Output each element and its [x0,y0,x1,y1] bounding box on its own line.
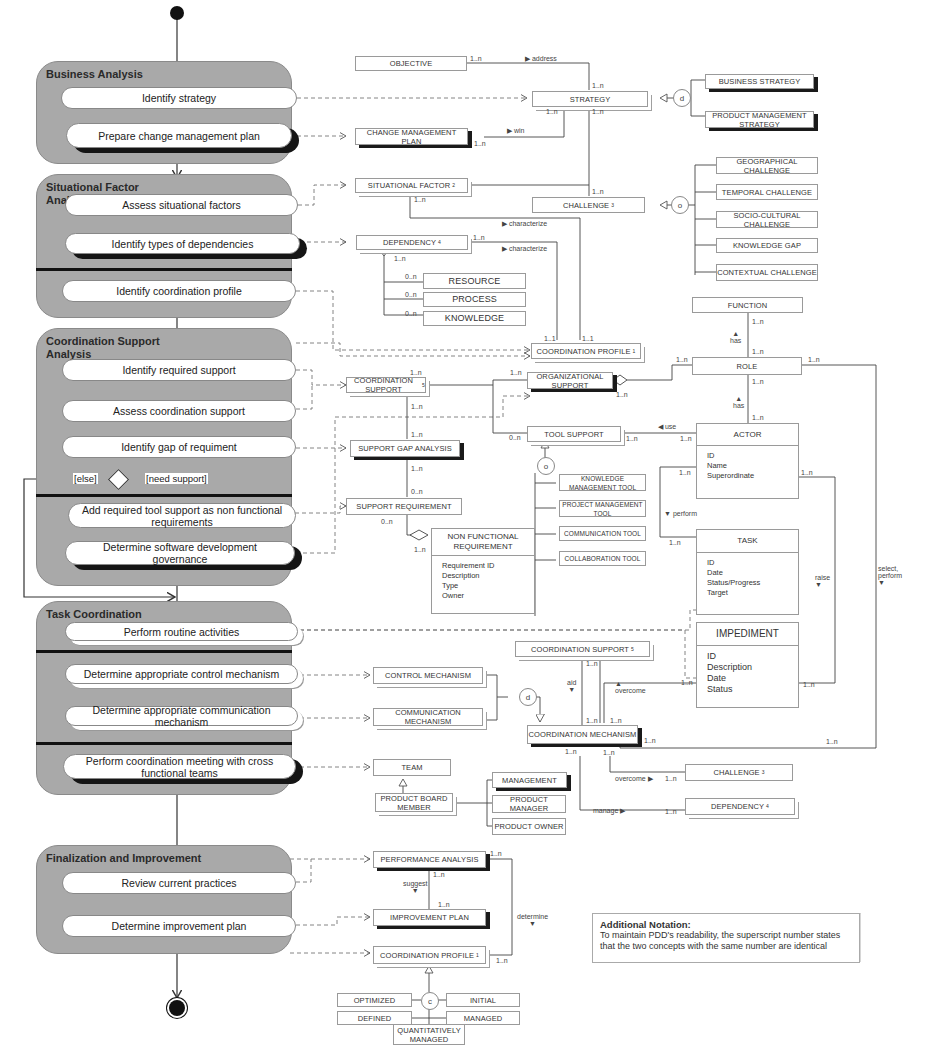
phase-finalization-and-improvement: Finalization and Improvement [36,845,292,954]
concept-temporal-challenge[interactable]: TEMPORAL CHALLENGE [716,184,818,200]
class-actor[interactable]: ACTOR ID Name Superordinate [696,423,799,499]
relation-aid: aid▼ [567,679,576,693]
concept-defined[interactable]: DEFINED [337,1011,412,1025]
concept-situational-factor[interactable]: SITUATIONAL FACTOR2 [355,178,468,193]
phase-title: Task Coordination [46,608,166,621]
activity-add-required-tool-support[interactable]: Add required tool support as non functio… [68,503,296,528]
concept-coordination-profile-1[interactable]: COORDINATION PROFILE1 [531,343,641,359]
activity-perform-coordination-meeting[interactable]: Perform coordination meeting with cross … [63,754,296,779]
activity-identify-gap-of-requirement[interactable]: Identify gap of requiment [62,436,296,458]
concept-knowledge-management-tool[interactable]: KNOWLEDGE MANAGEMENT TOOL [559,474,646,491]
concept-change-management-plan[interactable]: CHANGE MANAGEMENT PLAN [355,128,468,145]
process-deliverable-diagram: Business Analysis Identify strategy Prep… [0,0,932,1059]
concept-challenge[interactable]: CHALLENGE3 [532,197,645,213]
concept-dependency[interactable]: DEPENDENCY4 [356,235,468,250]
concept-business-strategy[interactable]: BUSINESS STRATEGY [705,74,814,89]
activity-determine-improvement-plan[interactable]: Determine improvement plan [62,915,296,937]
concept-dependency-4[interactable]: DEPENDENCY4 [685,798,795,815]
concept-product-board-member[interactable]: PRODUCT BOARD MEMBER [375,793,453,812]
concept-product-management-strategy[interactable]: PRODUCT MANAGEMENT STRATEGY [705,111,814,128]
relation-label: win [514,127,525,134]
multiplicity: 1..n [669,539,681,546]
concept-role[interactable]: ROLE [692,357,802,375]
multiplicity: 1..n [414,546,426,553]
concept-resource[interactable]: RESOURCE [423,273,526,289]
relation-label: characterize [509,245,547,252]
concept-management[interactable]: MANAGEMENT [492,772,567,788]
concept-organizational-support[interactable]: ORGANIZATIONAL SUPPORT [527,372,613,389]
class-task[interactable]: TASK ID Date Status/Progress Target [696,529,799,615]
superscript: 3 [611,201,614,210]
concept-control-mechanism[interactable]: CONTROL MECHANISM [373,667,483,684]
relation-label: overcome [615,687,646,694]
activity-determine-control-mechanism[interactable]: Determine appropriate control mechanism [65,664,298,684]
concept-coordination-support-5[interactable]: COORDINATION SUPPORT5 [515,641,650,657]
concept-strategy[interactable]: STRATEGY [532,91,648,107]
class-non-functional-requirement[interactable]: NON FUNCTIONAL REQUIREMENT Requirement I… [431,528,535,614]
concept-objective[interactable]: OBJECTIVE [355,56,467,71]
concept-coordination-profile-final[interactable]: COORDINATION PROFILE1 [373,946,486,964]
class-header: TASK [697,530,798,553]
concept-improvement-plan[interactable]: IMPROVEMENT PLAN [373,909,486,926]
multiplicity: 1..n [490,850,502,857]
concept-support-gap-analysis[interactable]: SUPPORT GAP ANALYSIS [350,440,460,457]
activity-identify-coordination-profile[interactable]: Identify coordination profile [62,280,296,302]
concept-product-owner[interactable]: PRODUCT OWNER [492,818,566,835]
concept-process[interactable]: PROCESS [423,292,526,307]
activity-perform-routine-activities[interactable]: Perform routine activities [65,622,298,641]
concept-socio-cultural-challenge[interactable]: SOCIO-CULTURAL CHALLENGE [716,211,818,228]
concept-communication-mechanism[interactable]: COMMUNICATION MECHANISM [373,708,483,726]
concept-knowledge[interactable]: KNOWLEDGE [423,311,526,326]
class-impediment[interactable]: IMPEDIMENT ID Description Date Status [696,622,799,708]
multiplicity: 1..n [470,55,482,62]
superscript: 1 [633,347,636,356]
phase-business-analysis: Business Analysis [36,61,292,164]
concept-coordination-mechanism[interactable]: COORDINATION MECHANISM [527,725,638,744]
guard-need-support: [need support] [145,473,208,484]
superscript: 2 [452,181,455,190]
activity-assess-situational-factors[interactable]: Assess situational factors [65,194,298,216]
attribute: Superordinate [707,471,798,481]
additional-notation-note: Additional Notation: To maintain PDD's r… [592,913,860,963]
attribute: Description [442,571,534,581]
activity-identify-types-of-dependencies[interactable]: Identify types of dependencies [65,233,300,254]
activity-identify-strategy[interactable]: Identify strategy [61,87,297,109]
concept-challenge-3[interactable]: CHALLENGE3 [685,764,793,781]
superscript: 4 [438,238,441,247]
activity-identify-required-support[interactable]: Identify required support [62,359,296,381]
relation-characterize-1: ▶ characterize [502,220,547,228]
concept-coordination-support[interactable]: COORDINATION SUPPORT5 [346,377,426,393]
multiplicity: 1..n [752,378,764,385]
activity-review-current-practices[interactable]: Review current practices [62,872,296,894]
concept-performance-analysis[interactable]: PERFORMANCE ANALYSIS [373,851,486,868]
class-attributes: ID Name Superordinate [697,446,798,481]
relation-select-perform: select, perform▼ [878,565,914,586]
concept-contextual-challenge[interactable]: CONTEXTUAL CHALLENGE [716,264,818,281]
concept-knowledge-gap[interactable]: KNOWLEDGE GAP [716,238,818,253]
multiplicity: 0..n [381,518,393,525]
attribute: Type [442,581,534,591]
superscript: 5 [422,381,425,390]
concept-quantitatively-managed[interactable]: QUANTITATIVELY MANAGED [393,1024,465,1045]
concept-support-requirement[interactable]: SUPPORT REQUIREMENT [346,498,462,515]
activity-prepare-change-management-plan[interactable]: Prepare change management plan [66,123,292,148]
relation-use: ◀ use [658,423,676,431]
concept-managed[interactable]: MANAGED [446,1011,520,1025]
concept-initial[interactable]: INITIAL [446,993,520,1007]
multiplicity: 1..n [438,901,450,908]
concept-team[interactable]: TEAM [373,759,451,776]
concept-project-management-tool[interactable]: PROJECT MANAGEMENT TOOL [559,500,646,517]
note-body: To maintain PDD's readability, the super… [600,930,840,951]
concept-geographical-challenge[interactable]: GEOGRAPHICAL CHALLENGE [716,157,818,174]
relation-label: manage [593,807,618,814]
activity-determine-software-development-governance[interactable]: Determine software development governanc… [65,541,295,565]
multiplicity: 1..n [610,717,622,724]
activity-assess-coordination-support[interactable]: Assess coordination support [62,400,296,422]
concept-function[interactable]: FUNCTION [692,297,803,313]
concept-tool-support[interactable]: TOOL SUPPORT [527,426,621,442]
concept-product-manager[interactable]: PRODUCT MANAGER [492,795,566,813]
concept-optimized[interactable]: OPTIMIZED [337,993,412,1007]
activity-determine-communication-mechanism[interactable]: Determine appropriate communication mech… [65,706,298,726]
concept-collaboration-tool[interactable]: COLLABORATION TOOL [559,551,646,566]
concept-communication-tool[interactable]: COMMUNICATION TOOL [559,526,646,541]
